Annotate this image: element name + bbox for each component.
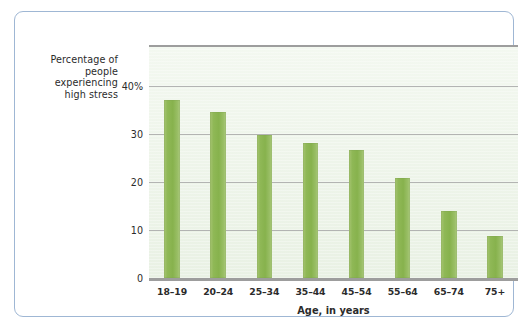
x-axis-title: Age, in years (149, 305, 518, 316)
y-axis-tick-label: 20 (131, 176, 143, 187)
x-axis-tick-label: 25–34 (249, 286, 279, 297)
y-axis-tick-label: 0 (137, 273, 143, 284)
x-axis-tick-label: 18–19 (157, 286, 187, 297)
y-axis-title: Percentage of people experiencing high s… (33, 54, 118, 100)
x-axis-tick-label: 35–44 (295, 286, 325, 297)
x-axis-tick-label: 45–54 (342, 286, 372, 297)
bar (210, 112, 226, 279)
y-axis-title-line-2: people (33, 66, 118, 78)
figure-card: Percentage of people experiencing high s… (14, 11, 514, 317)
y-axis-tick-label: 30 (131, 128, 143, 139)
y-axis-tick-label: 40% (122, 80, 143, 91)
x-axis-tick-label: 20–24 (203, 286, 233, 297)
bars-layer (149, 47, 518, 278)
bar (395, 178, 411, 278)
x-axis-tick-label: 75+ (485, 286, 505, 297)
y-axis-title-line-3: experiencing (33, 77, 118, 89)
x-axis-tick-label: 65–74 (434, 286, 464, 297)
y-axis-title-line-4: high stress (33, 89, 118, 101)
y-axis-tick-label: 10 (131, 224, 143, 235)
bar (303, 143, 319, 278)
x-axis-tick-label: 55–64 (388, 286, 418, 297)
bar (441, 211, 457, 278)
bar (164, 100, 180, 278)
bar (257, 135, 273, 278)
bar (487, 236, 503, 278)
x-axis-baseline (149, 278, 518, 281)
y-axis-title-line-1: Percentage of (33, 54, 118, 66)
plot-area: 010203040% 18–1920–2425–3435–4445–5455–6… (149, 45, 518, 278)
bar (349, 150, 365, 278)
